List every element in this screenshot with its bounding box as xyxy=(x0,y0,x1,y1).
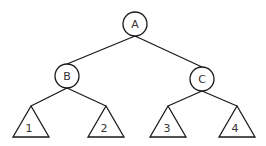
subtree-3: 3 xyxy=(150,106,186,137)
edge-a-c xyxy=(135,36,202,67)
node-c-label: C xyxy=(198,73,206,86)
edge-c-4 xyxy=(202,91,237,106)
node-a-label: A xyxy=(131,18,139,31)
subtree-4-label: 4 xyxy=(232,122,239,135)
node-a: A xyxy=(123,12,147,36)
edge-b-1 xyxy=(31,88,67,106)
node-c: C xyxy=(190,67,214,91)
subtree-1: 1 xyxy=(13,106,49,137)
tree-diagram: A B C 1 2 3 4 xyxy=(0,0,266,146)
subtree-3-label: 3 xyxy=(164,122,171,135)
subtree-1-label: 1 xyxy=(26,122,33,135)
subtree-2-label: 2 xyxy=(101,122,108,135)
edge-c-3 xyxy=(168,91,202,106)
node-b: B xyxy=(55,64,79,88)
subtree-4: 4 xyxy=(219,106,255,137)
node-b-label: B xyxy=(63,70,71,83)
edge-b-2 xyxy=(67,88,106,106)
edge-a-b xyxy=(67,36,135,64)
subtree-2: 2 xyxy=(88,106,124,137)
